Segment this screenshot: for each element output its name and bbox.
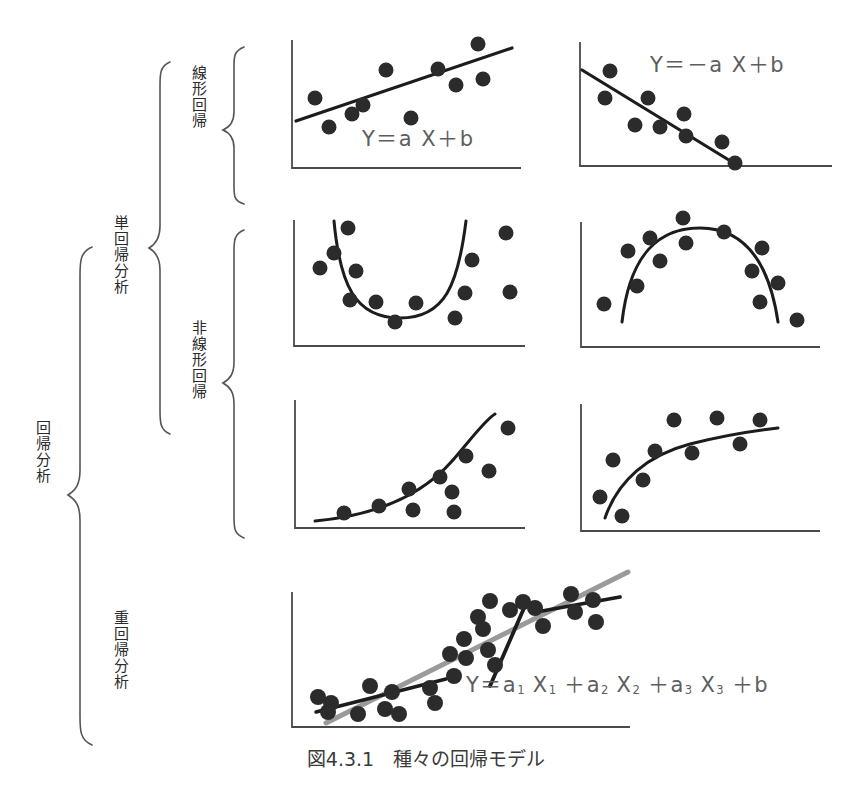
formula-linear-negative: Y＝－a X＋b bbox=[650, 48, 785, 78]
formula-linear-positive: Y＝a X＋b bbox=[362, 122, 475, 152]
figure-regression-models: 回帰分析 単回帰分析 重回帰分析 線形回帰 非線形回帰 bbox=[0, 0, 852, 800]
formula-multiple-regression-text: Y＝a1 X1 ＋a2 X2 ＋a3 X3 ＋b bbox=[466, 673, 769, 697]
chart-multiple-regression bbox=[292, 572, 630, 727]
gray-trend-line-multiple-regression bbox=[326, 572, 628, 723]
chart-nonlinear-exponential bbox=[295, 400, 525, 528]
data-points-nonlinear-exponential bbox=[337, 421, 516, 521]
chart-nonlinear-u bbox=[294, 220, 525, 346]
chart-nonlinear-inverted-u bbox=[581, 211, 820, 348]
fit-line-linear-negative bbox=[582, 70, 737, 165]
formula-multiple-regression: Y＝a1 X1 ＋a2 X2 ＋a3 X3 ＋b bbox=[466, 668, 769, 698]
chart-nonlinear-logarithmic bbox=[581, 404, 820, 531]
curve-nonlinear-exponential bbox=[315, 414, 495, 521]
axes-nonlinear-u bbox=[294, 220, 525, 346]
data-points-nonlinear-logarithmic bbox=[593, 411, 768, 524]
curve-nonlinear-logarithmic bbox=[605, 428, 778, 518]
figure-caption: 図4.3.1 種々の回帰モデル bbox=[0, 744, 852, 771]
formula-linear-positive-text: Y＝a X＋b bbox=[362, 127, 475, 151]
formula-linear-negative-text: Y＝－a X＋b bbox=[650, 53, 785, 77]
